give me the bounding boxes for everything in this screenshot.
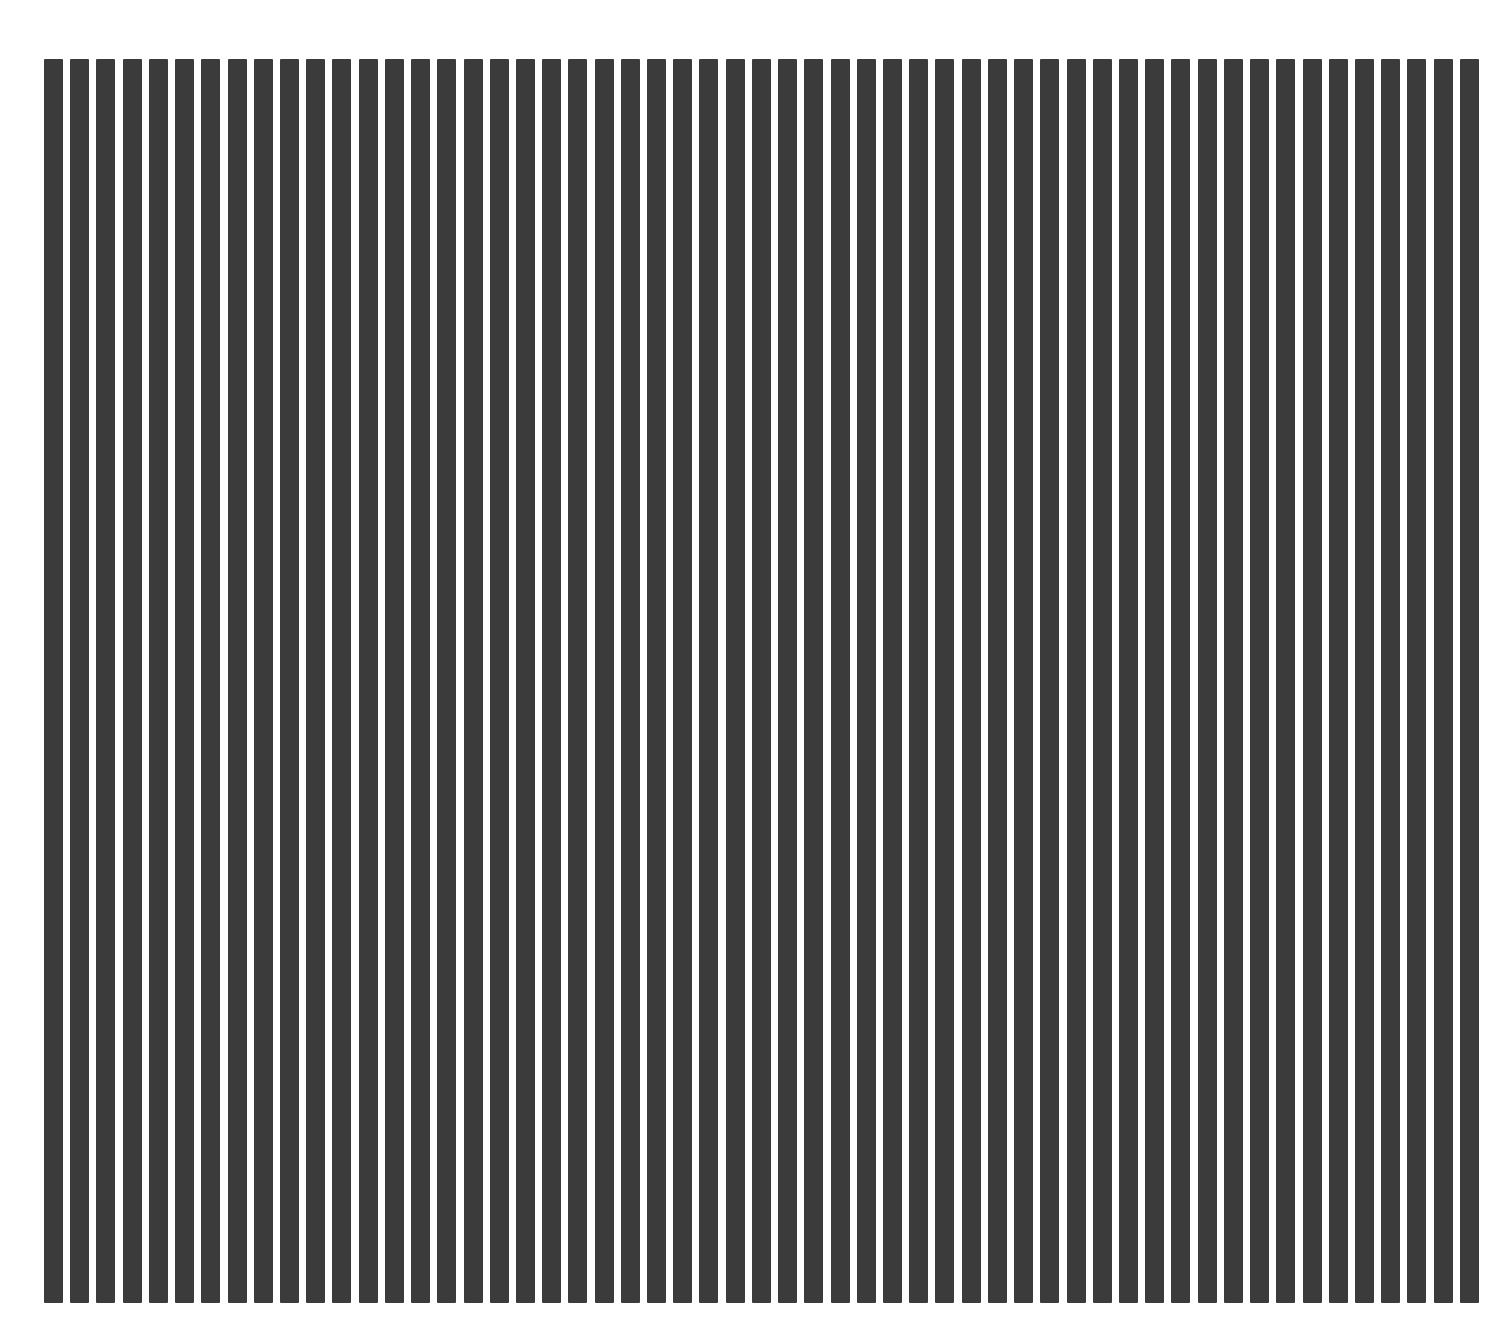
bar bbox=[1224, 59, 1243, 1303]
bar bbox=[1014, 59, 1033, 1303]
bar bbox=[411, 59, 430, 1303]
bar bbox=[1329, 59, 1348, 1303]
bar bbox=[726, 59, 745, 1303]
bar bbox=[1145, 59, 1164, 1303]
bar bbox=[254, 59, 273, 1303]
bar bbox=[1276, 59, 1295, 1303]
bar bbox=[621, 59, 640, 1303]
bar bbox=[1434, 59, 1453, 1303]
bar bbox=[1067, 59, 1086, 1303]
bar bbox=[96, 59, 115, 1303]
bar bbox=[1040, 59, 1059, 1303]
bar bbox=[385, 59, 404, 1303]
bar bbox=[1171, 59, 1190, 1303]
bar bbox=[464, 59, 483, 1303]
bar bbox=[883, 59, 902, 1303]
bar bbox=[490, 59, 509, 1303]
bar bbox=[70, 59, 89, 1303]
bar bbox=[1093, 59, 1112, 1303]
bar bbox=[1381, 59, 1400, 1303]
bar bbox=[516, 59, 535, 1303]
bar bbox=[306, 59, 325, 1303]
bar bbox=[44, 59, 63, 1303]
bar bbox=[752, 59, 771, 1303]
bar bbox=[1250, 59, 1269, 1303]
bar bbox=[175, 59, 194, 1303]
bar bbox=[1198, 59, 1217, 1303]
bar bbox=[542, 59, 561, 1303]
bar bbox=[595, 59, 614, 1303]
bar bbox=[647, 59, 666, 1303]
bar bbox=[673, 59, 692, 1303]
bar bbox=[1460, 59, 1479, 1303]
bar bbox=[778, 59, 797, 1303]
bar bbox=[1303, 59, 1322, 1303]
bar bbox=[280, 59, 299, 1303]
bar bbox=[909, 59, 928, 1303]
bar bbox=[437, 59, 456, 1303]
bar bbox=[857, 59, 876, 1303]
bar bbox=[332, 59, 351, 1303]
bar bbox=[1119, 59, 1138, 1303]
bar bbox=[568, 59, 587, 1303]
bar bbox=[699, 59, 718, 1303]
bar bbox=[962, 59, 981, 1303]
bar bbox=[988, 59, 1007, 1303]
bar bbox=[149, 59, 168, 1303]
bar bbox=[831, 59, 850, 1303]
bar-grating bbox=[44, 59, 1479, 1303]
bar bbox=[228, 59, 247, 1303]
bar bbox=[935, 59, 954, 1303]
bar bbox=[1407, 59, 1426, 1303]
bar bbox=[359, 59, 378, 1303]
bar bbox=[804, 59, 823, 1303]
bar bbox=[1355, 59, 1374, 1303]
bar bbox=[201, 59, 220, 1303]
bar bbox=[123, 59, 142, 1303]
